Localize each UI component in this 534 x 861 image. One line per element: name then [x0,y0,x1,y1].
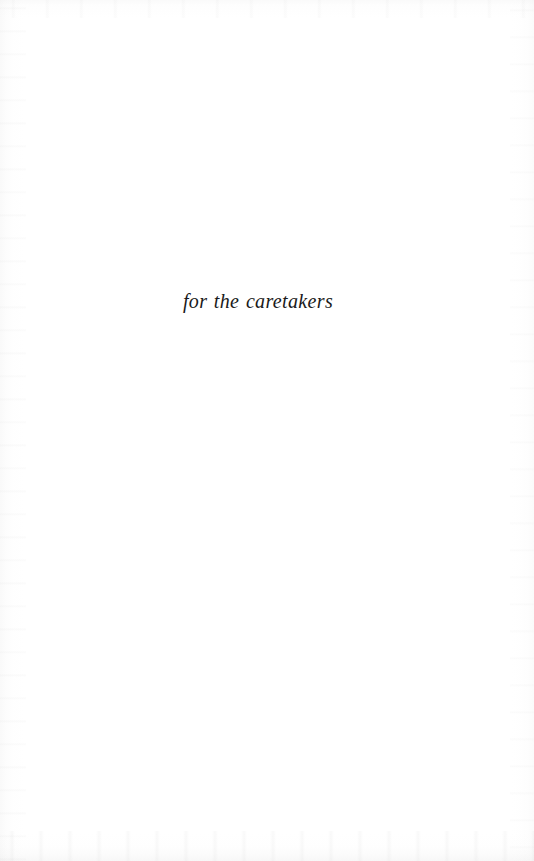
dedication-text: for the caretakers [183,288,333,314]
dedication-page: for the caretakers [0,0,534,861]
dedication-block: for the caretakers [0,288,534,314]
scan-artifact-top-edge [0,0,534,18]
scan-artifact-bottom-edge [0,831,534,861]
scan-artifact-right-edge [510,0,534,861]
scan-artifact-left-edge [0,0,26,861]
